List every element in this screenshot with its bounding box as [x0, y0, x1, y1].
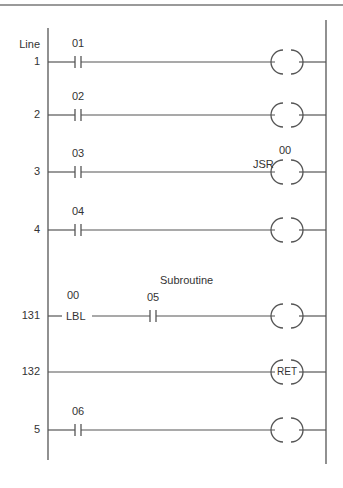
line-number: 1	[4, 55, 40, 67]
subroutine-label: Subroutine	[160, 274, 213, 286]
label-instruction: LBL	[66, 310, 86, 322]
contact-address: 03	[72, 147, 84, 159]
line-number: 132	[4, 365, 40, 377]
contact-address: 02	[72, 90, 84, 102]
line-heading: Line	[4, 38, 40, 50]
line-number: 3	[4, 165, 40, 177]
contact-address: 06	[72, 405, 84, 417]
label-address: 00	[67, 289, 79, 301]
contact-address: 05	[147, 291, 159, 303]
line-number: 2	[4, 108, 40, 120]
return-coil-text: RET	[277, 366, 297, 377]
line-number: 4	[4, 223, 40, 235]
ladder-diagram	[0, 0, 343, 488]
coil-instruction-label: JSR	[253, 158, 274, 170]
contact-address: 04	[72, 205, 84, 217]
coil-address: 00	[279, 144, 291, 156]
line-number: 5	[4, 423, 40, 435]
contact-address: 01	[72, 37, 84, 49]
line-number: 131	[4, 309, 40, 321]
